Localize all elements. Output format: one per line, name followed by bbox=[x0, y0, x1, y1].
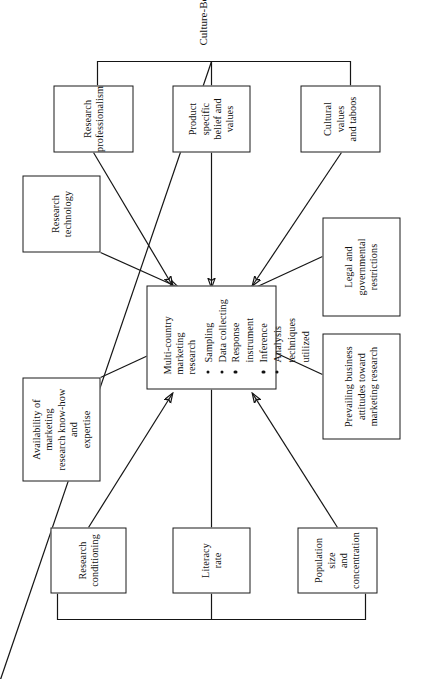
node-multi-country-marketing-research[interactable]: Multi-country marketing research Samplin… bbox=[146, 285, 276, 389]
node-legal-restrictions-label: Legal and governmental restrictions bbox=[342, 235, 379, 298]
node-literacy-rate-label: Literacy rate bbox=[199, 540, 224, 581]
right-bracket bbox=[97, 61, 350, 85]
center-node-bullet-list: Sampling Data collecting Response instru… bbox=[201, 298, 312, 374]
node-research-professionalism[interactable]: Research professionalism bbox=[53, 85, 133, 152]
center-node-bullet: Response instrument bbox=[228, 298, 256, 374]
node-product-specific-belief[interactable]: Product specific belief and values bbox=[172, 85, 250, 152]
node-prevailing-attitudes[interactable]: Prevailing business attitudes toward mar… bbox=[322, 333, 400, 439]
node-product-specific-belief-label: Product specific belief and values bbox=[186, 86, 236, 151]
center-node-bullet: Data collecting bbox=[215, 298, 229, 374]
node-research-professionalism-label: Research professionalism bbox=[81, 82, 106, 154]
node-availability-knowhow-label: Availability of marketing research know-… bbox=[30, 378, 92, 480]
node-research-conditioning-label: Research conditioning bbox=[76, 531, 101, 590]
node-population-size-label: Population size and concentration bbox=[312, 528, 362, 592]
node-research-conditioning[interactable]: Research conditioning bbox=[50, 527, 126, 593]
node-cultural-values[interactable]: Cultural values and taboos bbox=[300, 85, 380, 152]
caption-culture-bound-impediments: Culture-Bound Impediments bbox=[196, 0, 208, 45]
wire-conditioning-to-center bbox=[88, 393, 172, 527]
center-node-title: Multi-country marketing research bbox=[161, 298, 198, 374]
node-research-technology-label: Research technology bbox=[49, 187, 74, 239]
wire-technology-to-center bbox=[100, 252, 178, 287]
diagram-canvas: Research conditioning Literacy rate Popu… bbox=[0, 0, 422, 679]
wire-professionalism-to-center bbox=[93, 152, 172, 285]
center-node-bullet: Sampling bbox=[201, 298, 215, 374]
node-prevailing-attitudes-label: Prevailing business attitudes toward mar… bbox=[342, 343, 379, 430]
node-cultural-values-label: Cultural values and taboos bbox=[321, 86, 358, 151]
node-legal-restrictions[interactable]: Legal and governmental restrictions bbox=[322, 217, 400, 316]
center-node-bullet: Inference bbox=[256, 298, 270, 374]
node-literacy-rate[interactable]: Literacy rate bbox=[172, 527, 250, 593]
figure-stage: Research conditioning Literacy rate Popu… bbox=[0, 0, 422, 679]
center-node-bullet: Analysis techniques utilized bbox=[270, 298, 312, 374]
node-population-size[interactable]: Population size and concentration bbox=[297, 527, 377, 593]
node-availability-knowhow[interactable]: Availability of marketing research know-… bbox=[22, 377, 100, 481]
node-research-technology[interactable]: Research technology bbox=[22, 175, 100, 252]
